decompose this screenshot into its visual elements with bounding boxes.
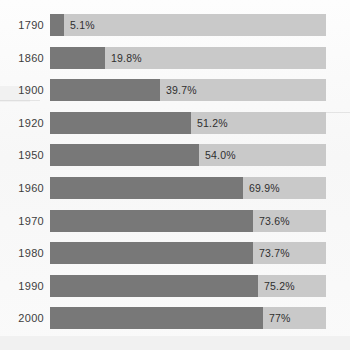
chart-row: 186019.8% [0, 47, 350, 69]
chart-row: 196069.9% [0, 177, 350, 199]
bar-fill [50, 47, 105, 69]
bar-fill [50, 144, 199, 166]
chart-row: 199075.2% [0, 275, 350, 297]
chart-rows: 17905.1%186019.8%190039.7%192051.2%19505… [0, 0, 350, 350]
bar-fill [50, 112, 191, 134]
category-label-year: 1970 [0, 210, 44, 232]
bar-track [50, 144, 326, 166]
bar-track [50, 47, 326, 69]
bar-value-label: 69.9% [249, 177, 280, 199]
bar-value-label: 54.0% [205, 144, 236, 166]
bar-value-label: 73.7% [259, 242, 290, 264]
category-label-year: 1980 [0, 242, 44, 264]
bar-fill [50, 177, 243, 199]
bar-value-label: 75.2% [264, 275, 295, 297]
category-label-year: 1960 [0, 177, 44, 199]
chart-row: 200077% [0, 307, 350, 329]
bar-fill [50, 79, 160, 101]
bar-track [50, 177, 326, 199]
chart-row: 17905.1% [0, 14, 350, 36]
bar-fill [50, 242, 253, 264]
category-label-year: 1900 [0, 79, 44, 101]
chart-row: 195054.0% [0, 144, 350, 166]
chart-row: 197073.6% [0, 210, 350, 232]
bar-track [50, 112, 326, 134]
bar-value-label: 19.8% [111, 47, 142, 69]
bar-value-label: 77% [269, 307, 291, 329]
bar-value-label: 39.7% [166, 79, 197, 101]
bar-fill [50, 275, 258, 297]
category-label-year: 1790 [0, 14, 44, 36]
bar-value-label: 73.6% [259, 210, 290, 232]
category-label-year: 1860 [0, 47, 44, 69]
chart-row: 198073.7% [0, 242, 350, 264]
category-label-year: 2000 [0, 307, 44, 329]
bar-fill [50, 14, 64, 36]
bar-value-label: 51.2% [197, 112, 228, 134]
category-label-year: 1920 [0, 112, 44, 134]
bar-value-label: 5.1% [70, 14, 95, 36]
category-label-year: 1950 [0, 144, 44, 166]
bar-chart: 17905.1%186019.8%190039.7%192051.2%19505… [0, 0, 350, 350]
bar-fill [50, 210, 253, 232]
chart-row: 192051.2% [0, 112, 350, 134]
bar-fill [50, 307, 263, 329]
category-label-year: 1990 [0, 275, 44, 297]
chart-row: 190039.7% [0, 79, 350, 101]
